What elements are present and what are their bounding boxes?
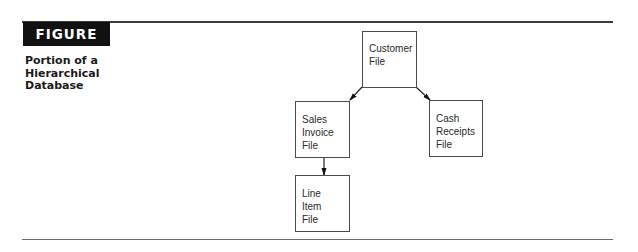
node-text: Sales [302,113,349,126]
node-text: File [436,138,482,151]
node-cash-receipts-file: Cash Receipts File [429,100,483,157]
caption-line: Portion of a [25,55,120,68]
node-text: Invoice [302,126,349,139]
node-text: Item [302,200,349,213]
top-rule [22,21,613,23]
figure-caption: Portion of a Hierarchical Database [25,55,120,93]
node-sales-invoice-file: Sales Invoice File [295,101,350,158]
edge-customer-to-sales-invoice [350,87,362,100]
node-text: Receipts [436,125,482,138]
edge-customer-to-cash-receipts [416,87,430,100]
node-text: File [302,213,349,226]
bottom-rule [22,239,613,240]
node-customer-file: Customer File [362,31,417,88]
caption-line: Database [25,80,120,93]
node-text: Customer [369,42,416,55]
node-line-item-file: Line Item File [295,175,350,232]
node-text: File [302,139,349,152]
figure-label: FIGURE 4.9 [23,22,110,46]
node-text: Cash [436,112,482,125]
node-text: File [369,55,416,68]
node-text: Line [302,187,349,200]
